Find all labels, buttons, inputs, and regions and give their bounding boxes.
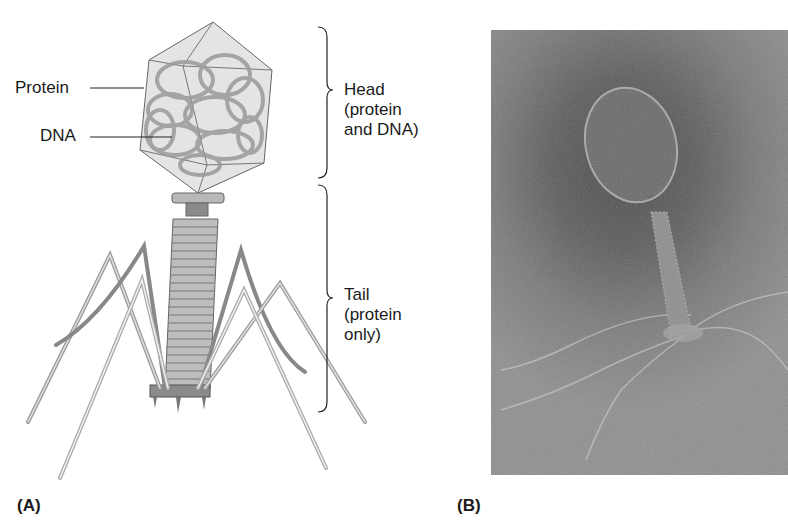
head-annotation-line-2: (protein	[344, 100, 419, 120]
electron-micrograph	[491, 30, 788, 475]
tail-bracket	[318, 185, 333, 412]
tail-annotation-line-3: only)	[344, 325, 402, 345]
head-annotation-line-3: and DNA)	[344, 120, 419, 140]
panel-b-label: (B)	[457, 496, 481, 516]
tail-annotation-line-2: (protein	[344, 305, 402, 325]
dna-label: DNA	[40, 126, 76, 146]
panel-a-label: (A)	[17, 496, 41, 516]
tail-annotation: Tail (protein only)	[344, 285, 402, 345]
head-annotation: Head (protein and DNA)	[344, 80, 419, 140]
phage-collar	[172, 193, 224, 216]
head-bracket	[318, 27, 333, 178]
head-annotation-line-1: Head	[344, 80, 419, 100]
tail-annotation-line-1: Tail	[344, 285, 402, 305]
phage-head	[140, 22, 272, 193]
protein-label: Protein	[15, 78, 69, 98]
